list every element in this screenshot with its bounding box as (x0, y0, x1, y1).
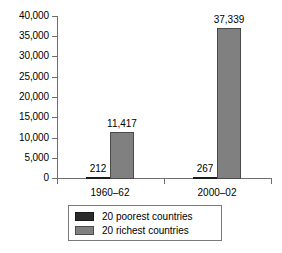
bar-richest-1960-62 (110, 132, 134, 179)
y-axis-label: 25,000 (0, 72, 49, 82)
y-axis-label: 10,000 (0, 133, 49, 143)
bar-poorest-2000-02 (193, 177, 217, 179)
dark-swatch-icon (75, 212, 94, 221)
y-axis-label: 30,000 (0, 51, 49, 61)
y-tick-mark (52, 36, 57, 37)
chart-legend: 20 poorest countries 20 richest countrie… (68, 205, 222, 241)
y-tick-mark (52, 56, 57, 57)
legend-item-poorest: 20 poorest countries (75, 210, 215, 223)
x-tick-mark (271, 178, 272, 184)
x-axis-category-label: 2000–02 (172, 187, 262, 198)
x-tick-mark (57, 178, 58, 184)
y-tick-mark (52, 77, 57, 78)
y-axis-label: 35,000 (0, 31, 49, 41)
y-axis-label: 40,000 (0, 11, 49, 21)
bar-chart: 40,000 35,000 30,000 25,000 20,000 15,00… (0, 0, 282, 253)
bar-richest-2000-02 (217, 28, 241, 179)
y-tick-mark (52, 158, 57, 159)
x-tick-mark (164, 178, 165, 184)
y-axis-label: 5,000 (0, 153, 49, 163)
y-tick-mark (52, 97, 57, 98)
y-axis-label: 15,000 (0, 112, 49, 122)
legend-label-poorest: 20 poorest countries (102, 211, 193, 222)
y-axis-line (57, 16, 58, 179)
bar-value-richest-2000-02: 37,339 (199, 15, 259, 25)
y-axis-label: 20,000 (0, 92, 49, 102)
y-axis-label: 0 (0, 173, 49, 183)
x-axis-category-label: 1960–62 (65, 187, 155, 198)
light-swatch-icon (75, 226, 94, 235)
bar-value-richest-1960-62: 11,417 (92, 119, 152, 129)
bar-poorest-1960-62 (86, 177, 110, 179)
y-tick-mark (52, 117, 57, 118)
y-tick-mark (52, 138, 57, 139)
y-tick-mark (52, 16, 57, 17)
legend-label-richest: 20 richest countries (102, 225, 189, 236)
legend-item-richest: 20 richest countries (75, 224, 215, 237)
